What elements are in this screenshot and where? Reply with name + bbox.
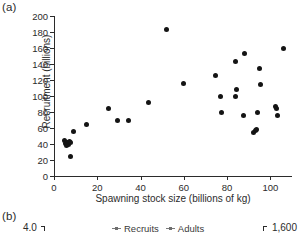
y-tick-mark xyxy=(50,32,54,33)
x-tick-mark xyxy=(270,176,271,180)
scatter-point xyxy=(281,46,286,51)
y-tick-label: 60 xyxy=(37,123,48,134)
scatter-point xyxy=(219,110,224,115)
panel-b-label: (b) xyxy=(2,210,16,222)
legend-entry-adults: Adults xyxy=(166,223,204,234)
y-tick-mark xyxy=(50,112,54,113)
scatter-point xyxy=(275,113,280,118)
scatter-point xyxy=(233,94,238,99)
legend-label-recruits: Recruits xyxy=(124,223,159,234)
scatter-point xyxy=(181,81,186,86)
x-tick-mark xyxy=(227,176,228,180)
scatter-plot-panel-a: 020406080100120140160180200 020406080100 xyxy=(54,16,292,176)
y-tick-label: 140 xyxy=(32,59,48,70)
scatter-point xyxy=(71,129,76,134)
legend-label-adults: Adults xyxy=(178,223,204,234)
scatter-point xyxy=(254,127,259,132)
y-tick-mark xyxy=(50,160,54,161)
y-tick-label: 40 xyxy=(37,139,48,150)
scatter-point xyxy=(258,82,263,87)
scatter-point xyxy=(164,27,169,32)
panel-a-label: (a) xyxy=(2,1,16,13)
legend-marker-icon-adults xyxy=(166,225,175,232)
x-tick-label: 40 xyxy=(135,182,146,193)
scatter-point xyxy=(68,140,73,145)
panel-b-partial: (b) 4.0 Recruits Adults 1,600 xyxy=(0,206,303,238)
y-tick-mark xyxy=(50,64,54,65)
x-tick-label: 20 xyxy=(92,182,103,193)
scatter-point xyxy=(115,118,120,123)
scatter-point xyxy=(126,118,131,123)
x-tick-mark xyxy=(141,176,142,180)
scatter-point xyxy=(106,106,111,111)
y-tick-mark xyxy=(50,96,54,97)
y-tick-label: 80 xyxy=(37,107,48,118)
y-tick-label: 160 xyxy=(32,43,48,54)
x-tick-label: 0 xyxy=(51,182,56,193)
x-tick-label: 100 xyxy=(262,182,278,193)
legend-entry-recruits: Recruits xyxy=(112,223,159,234)
scatter-point xyxy=(68,154,73,159)
scatter-point xyxy=(274,106,279,111)
panel-b-left-axis-top-value: 4.0 xyxy=(23,222,37,233)
legend-marker-icon-recruits xyxy=(112,225,121,232)
x-tick-label: 80 xyxy=(222,182,233,193)
y-tick-label: 100 xyxy=(32,91,48,102)
scatter-point xyxy=(213,73,218,78)
scatter-point xyxy=(257,66,262,71)
x-tick-mark xyxy=(54,176,55,180)
y-tick-label: 0 xyxy=(43,171,48,182)
panel-b-right-axis-tick xyxy=(263,226,264,231)
panel-b-right-axis-top-value: 1,600 xyxy=(272,222,297,233)
x-axis-label: Spawning stock size (billions of kg) xyxy=(54,193,292,204)
x-tick-mark xyxy=(184,176,185,180)
y-tick-mark xyxy=(50,128,54,129)
panel-b-left-axis-tick xyxy=(44,226,45,231)
y-axis-line xyxy=(54,16,55,176)
y-tick-mark xyxy=(50,16,54,17)
y-tick-label: 120 xyxy=(32,75,48,86)
scatter-point xyxy=(234,87,239,92)
x-axis-line xyxy=(54,176,292,177)
y-tick-label: 200 xyxy=(32,11,48,22)
scatter-point xyxy=(255,110,260,115)
x-tick-mark xyxy=(97,176,98,180)
scatter-point xyxy=(218,94,223,99)
y-tick-mark xyxy=(50,80,54,81)
scatter-point xyxy=(242,51,247,56)
x-tick-label: 60 xyxy=(179,182,190,193)
scatter-point xyxy=(84,122,89,127)
y-tick-label: 180 xyxy=(32,27,48,38)
scatter-point xyxy=(146,100,151,105)
y-tick-mark xyxy=(50,48,54,49)
scatter-point xyxy=(241,113,246,118)
y-tick-label: 20 xyxy=(37,155,48,166)
y-tick-mark xyxy=(50,144,54,145)
scatter-point xyxy=(233,59,238,64)
panel-b-legend: Recruits Adults xyxy=(112,223,204,234)
figure-container: (a) Recruitment (billions) 0204060801001… xyxy=(0,0,303,238)
